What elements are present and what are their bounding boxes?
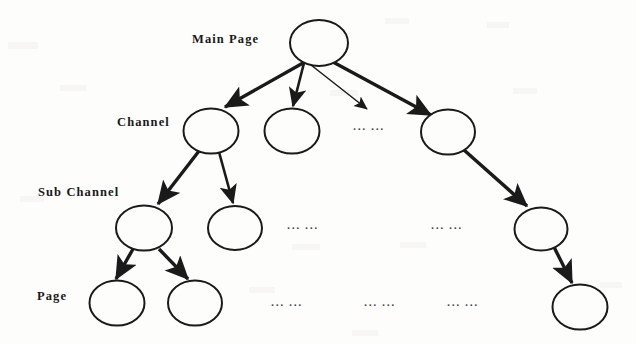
- level-label-main-page: Main Page: [192, 33, 259, 46]
- edge-channel1-to-sub2: [219, 152, 233, 203]
- ellipsis-page-ellipsis-3: ··· ···: [447, 300, 479, 311]
- ellipsis-page-ellipsis-1: ··· ···: [271, 300, 303, 311]
- level-label-channel: Channel: [117, 116, 170, 129]
- edge-root-to-ellipsis: [311, 65, 367, 109]
- edge-sub1-to-page2: [159, 249, 188, 279]
- edge-subn-to-pagen: [554, 247, 572, 283]
- node-page-n[interactable]: [553, 285, 608, 330]
- level-label-page: Page: [37, 290, 67, 303]
- edge-channel1-to-sub1: [158, 151, 199, 204]
- node-channel-n[interactable]: [421, 110, 475, 155]
- edge-layer: [116, 62, 572, 283]
- node-layer: [90, 20, 608, 330]
- tree-graph: [0, 0, 636, 344]
- diagram-canvas: Main PageChannelSub ChannelPage ··· ····…: [0, 0, 636, 344]
- ellipsis-channel-ellipsis: ··· ···: [353, 124, 385, 135]
- node-page-2[interactable]: [168, 281, 222, 326]
- node-page-1[interactable]: [90, 281, 145, 326]
- node-channel-2[interactable]: [265, 109, 320, 154]
- node-subchannel-n[interactable]: [515, 208, 568, 251]
- node-subchannel-2[interactable]: [208, 206, 262, 250]
- node-subchannel-1[interactable]: [116, 206, 172, 251]
- level-label-sub-channel: Sub Channel: [38, 186, 119, 199]
- ellipsis-page-ellipsis-2: ··· ···: [364, 300, 396, 311]
- ellipsis-subchannel-ellipsis-2: ··· ···: [431, 223, 463, 234]
- edge-root-to-channel-n: [333, 62, 431, 115]
- node-root[interactable]: [290, 20, 348, 66]
- edge-channeln-to-subn: [464, 150, 527, 206]
- ellipsis-subchannel-ellipsis-1: ··· ···: [287, 223, 319, 234]
- node-channel-1[interactable]: [184, 109, 239, 154]
- edge-root-to-channel-1: [225, 63, 303, 107]
- edge-sub1-to-page1: [116, 249, 133, 279]
